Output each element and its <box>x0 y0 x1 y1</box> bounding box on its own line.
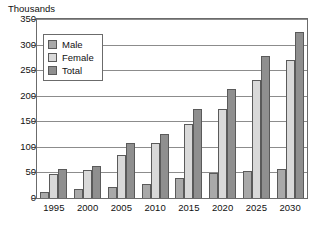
bar-chart: Thousands 050100150200250300350 19952000… <box>0 0 320 231</box>
bar-total-2025 <box>261 56 270 198</box>
legend-item-male: Male <box>48 38 94 51</box>
bar-male-1995 <box>40 192 49 198</box>
bar-female-2005 <box>117 155 126 198</box>
bar-female-2020 <box>218 109 227 199</box>
legend-label-female: Female <box>62 52 94 63</box>
bar-cluster <box>243 19 270 198</box>
bar-total-1995 <box>58 169 67 198</box>
legend-item-total: Total <box>48 64 94 77</box>
legend-swatch-male-icon <box>48 40 57 49</box>
x-axis-tick-label: 2010 <box>145 202 166 218</box>
bar-total-2010 <box>160 134 169 198</box>
legend-swatch-total-icon <box>48 66 57 75</box>
legend-label-male: Male <box>62 39 83 50</box>
chart-legend: Male Female Total <box>43 34 103 81</box>
bar-cluster <box>142 19 169 198</box>
bar-total-2015 <box>193 109 202 199</box>
bar-female-2000 <box>83 170 92 198</box>
bar-male-2025 <box>243 171 252 198</box>
bar-female-2010 <box>151 143 160 198</box>
bar-cluster <box>175 19 202 198</box>
bar-male-2005 <box>108 187 117 198</box>
bar-male-2010 <box>142 184 151 198</box>
bar-cluster <box>277 19 304 198</box>
bar-male-2015 <box>175 178 184 198</box>
x-axis-tick-label: 2005 <box>111 202 132 218</box>
y-axis: 050100150200250300350 <box>0 18 36 200</box>
legend-swatch-female-icon <box>48 53 57 62</box>
x-axis-tick-label: 1995 <box>43 202 64 218</box>
x-axis-tick-label: 2025 <box>246 202 267 218</box>
bar-total-2030 <box>295 32 304 198</box>
bar-female-1995 <box>49 174 58 198</box>
bar-total-2000 <box>92 166 101 198</box>
bar-cluster <box>209 19 236 198</box>
bar-total-2005 <box>126 143 135 198</box>
bar-total-2020 <box>227 89 236 198</box>
x-axis-labels: 19952000200520102015202020252030 <box>37 202 307 218</box>
x-axis-tick-label: 2015 <box>178 202 199 218</box>
bar-male-2000 <box>74 189 83 198</box>
bar-cluster <box>108 19 135 198</box>
x-axis-tick-label: 2000 <box>77 202 98 218</box>
legend-item-female: Female <box>48 51 94 64</box>
bar-female-2015 <box>184 124 193 198</box>
x-axis-tick-label: 2020 <box>212 202 233 218</box>
bar-female-2030 <box>286 60 295 198</box>
x-axis-tick-label: 2030 <box>280 202 301 218</box>
legend-label-total: Total <box>62 65 82 76</box>
bar-female-2025 <box>252 80 261 198</box>
bar-male-2020 <box>209 173 218 198</box>
bar-male-2030 <box>277 169 286 198</box>
